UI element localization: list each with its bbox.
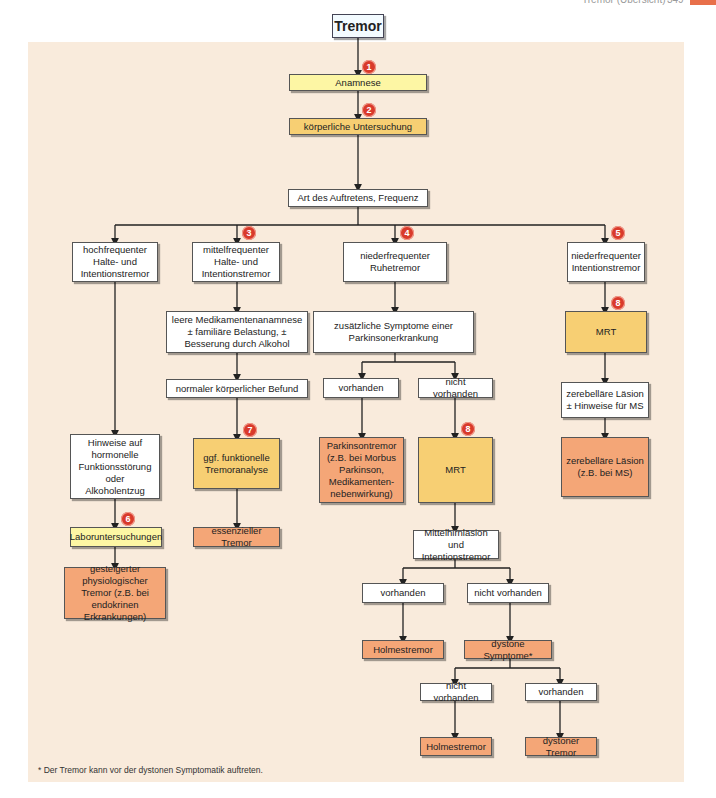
node-anamnese: Anamnese xyxy=(289,74,427,91)
node-vorhanden-parkinson: vorhanden xyxy=(323,378,399,398)
node-mrt-mid: MRT xyxy=(418,437,493,503)
node-niederfrequent-intention: niederfrequenter Intentionstremor xyxy=(567,242,645,282)
node-root: Tremor xyxy=(332,14,384,38)
node-parkinsontremor: Parkinsontremor (z.B. bei Morbus Parkins… xyxy=(319,437,404,503)
node-hochfrequent: hochfrequenter Halte- und Intentionstrem… xyxy=(72,242,158,282)
node-nicht-vorhanden-parkinson: nicht vorhanden xyxy=(418,378,493,398)
footnote: * Der Tremor kann vor der dystonen Sympt… xyxy=(38,765,263,775)
node-nicht-vorhanden-mittelhirn: nicht vorhanden xyxy=(467,583,549,603)
node-zerebellaere-laesion-ms: zerebelläre Läsion (z.B. bei MS) xyxy=(561,437,649,497)
node-zusaetzliche-symptome: zusätzliche Symptome einer Parkinsonerkr… xyxy=(313,311,474,353)
step-badge-8-mid: 8 xyxy=(461,422,475,436)
node-dystone-symptome: dystone Symptome* xyxy=(464,640,552,659)
node-holmestremor-1: Holmestremor xyxy=(362,640,444,659)
node-dystoner-tremor: dystoner Tremor xyxy=(525,737,597,756)
step-badge-4: 4 xyxy=(400,226,414,240)
step-badge-8-right: 8 xyxy=(611,296,625,310)
node-gesteigerter-tremor: gesteigerter physiologischer Tremor (z.B… xyxy=(64,567,166,619)
node-mittelfrequent: mittelfrequenter Halte- und Intentionstr… xyxy=(192,242,280,282)
node-art-des-auftretens: Art des Auftretens, Frequenz xyxy=(288,189,428,207)
node-laboruntersuchungen: Laboruntersuchungen xyxy=(70,527,162,547)
step-badge-6: 6 xyxy=(121,512,135,526)
node-mittelhirnlaesion: Mittelhirnläsion und Intentionstremor xyxy=(413,530,499,559)
node-leere-medikamentenanamnese: leere Medikamentenanamnese ± familiäre B… xyxy=(166,311,308,353)
node-hinweise-hormonell: Hinweise auf hormonelle Funktionsstörung… xyxy=(70,434,160,499)
node-zerebellaere-laesion-hinweis: zerebelläre Läsion ± Hinweise für MS xyxy=(561,382,649,418)
node-niederfrequent-ruhe: niederfrequenter Ruhetremor xyxy=(343,242,447,282)
step-badge-5: 5 xyxy=(611,226,625,240)
node-tremoranalyse: ggf. funktionelle Tremoranalyse xyxy=(193,438,280,489)
step-badge-1: 1 xyxy=(362,60,376,74)
node-vorhanden-dyston: vorhanden xyxy=(525,683,597,701)
step-badge-7: 7 xyxy=(243,423,257,437)
node-holmestremor-2: Holmestremor xyxy=(420,737,492,756)
node-nicht-vorhanden-dyston: nicht vorhanden xyxy=(420,683,492,701)
node-vorhanden-mittelhirn: vorhanden xyxy=(362,583,444,603)
node-essenzieller-tremor: essenzieller Tremor xyxy=(193,527,280,547)
node-normaler-befund: normaler körperlicher Befund xyxy=(166,379,308,398)
node-koerperliche-untersuchung: körperliche Untersuchung xyxy=(289,118,427,135)
node-mrt-right: MRT xyxy=(565,311,647,353)
step-badge-3: 3 xyxy=(242,226,256,240)
step-badge-2: 2 xyxy=(362,103,376,117)
